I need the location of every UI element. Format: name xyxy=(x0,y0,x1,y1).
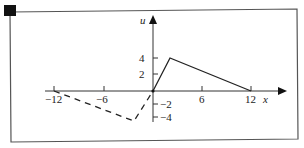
corner-marker-icon xyxy=(4,5,16,16)
x-tick-label: 6 xyxy=(199,93,205,105)
plot-svg: −12 −6 6 12 x 4 2 −2 −4 u xyxy=(0,0,304,148)
x-axis-arrow-icon xyxy=(278,87,287,95)
x-axis-label: x xyxy=(262,93,268,105)
origin-point xyxy=(151,89,154,92)
y-tick-label: 4 xyxy=(139,52,145,64)
x-ticks: −12 −6 6 12 x xyxy=(45,86,268,105)
y-tick-label: −2 xyxy=(160,98,172,110)
x-tick-label: 12 xyxy=(245,93,256,105)
y-axis-arrow-icon xyxy=(149,15,157,24)
x-tick-label: −6 xyxy=(96,93,108,105)
figure: −12 −6 6 12 x 4 2 −2 −4 u xyxy=(0,0,304,148)
y-axis-label: u xyxy=(140,14,146,26)
frame xyxy=(4,5,298,142)
y-ticks: 4 2 −2 −4 u xyxy=(139,14,172,123)
y-tick-label: −4 xyxy=(160,111,172,123)
frame-border xyxy=(10,9,298,142)
y-tick-label: 2 xyxy=(139,68,145,80)
x-tick-label: −12 xyxy=(45,93,62,105)
